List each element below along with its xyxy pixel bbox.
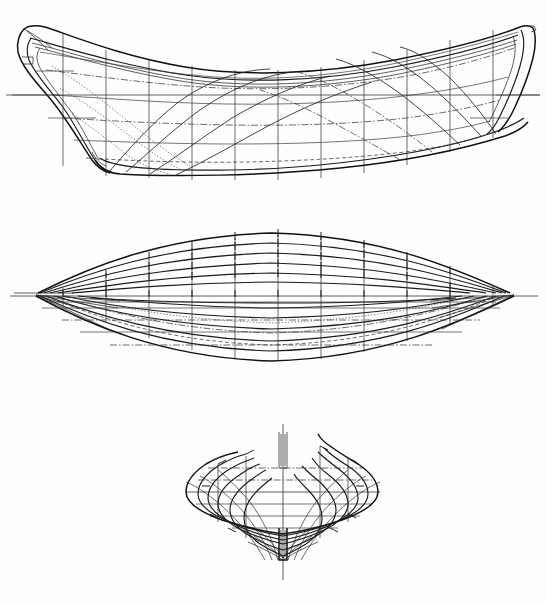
halfbreadth-wl-upper-5 (58, 273, 486, 293)
sheer-transom-inner (487, 30, 524, 134)
bodyplan-buttock-aft-2 (200, 476, 272, 560)
sheer-waterline-6 (86, 137, 480, 162)
sheer-stem-outer (17, 29, 110, 173)
bodyplan-section-fwd-6 (283, 474, 322, 556)
body-plan-view (0, 410, 546, 602)
sheer-stern-post (498, 28, 535, 132)
halfbreadth-wl-upper-6 (72, 282, 470, 293)
sheer-garboard (100, 118, 524, 170)
sheer-buttock-fwd-2 (52, 66, 190, 166)
sheer-stem-notch (22, 57, 33, 64)
sheer-plan-view (0, 0, 546, 200)
bodyplan-section-aft-1 (186, 452, 283, 534)
sheer-diagonal-aft-3 (336, 59, 460, 145)
lines-plan-sheet: Ship Lines Plan Sheer Plan (Profile) Hal… (0, 0, 546, 602)
halfbreadth-wl-upper-4 (50, 263, 496, 293)
sheer-rail-strip-b (35, 44, 516, 87)
sheer-waterline-1 (40, 32, 518, 78)
halfbreadth-fwd-ray-4 (36, 295, 108, 329)
bodyplan-section-aft-6 (244, 478, 283, 556)
bodyplan-section-aft-2 (198, 454, 283, 536)
sheer-waterline-5 (74, 121, 490, 144)
sheer-diagonal-aft-1 (400, 47, 496, 134)
sheer-waterline-2 (46, 48, 514, 89)
half-breadth-plan-view (0, 198, 546, 398)
sheer-stem-rabbet (37, 48, 99, 160)
sheer-waterline-3 (52, 77, 508, 104)
